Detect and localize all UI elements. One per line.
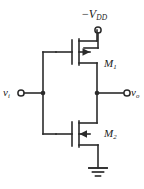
input-terminal-circle[interactable] <box>18 90 24 96</box>
m1-body-arrow-icon <box>83 48 91 56</box>
schematic-figure: −VDD M1 M2 vi vo <box>0 0 144 189</box>
output-label: vo <box>131 87 140 98</box>
circuit-schematic-svg <box>0 0 144 189</box>
m2-subscript: 2 <box>113 133 117 140</box>
supply-minus-sign: − <box>82 7 89 21</box>
m1-symbol: M <box>104 57 113 69</box>
input-label: vi <box>3 87 10 98</box>
supply-label: −VDD <box>82 8 107 20</box>
transistor-m1-label: M1 <box>104 58 117 69</box>
supply-terminal-circle[interactable] <box>95 27 101 33</box>
m2-body-arrow-icon <box>80 130 88 138</box>
m2-symbol: M <box>104 127 113 139</box>
m1-subscript: 1 <box>113 63 117 70</box>
output-subscript: o <box>136 92 140 99</box>
gate-junction-dot <box>41 91 46 96</box>
input-subscript: i <box>8 92 10 99</box>
output-terminal-circle[interactable] <box>124 90 130 96</box>
supply-subscript: DD <box>96 13 107 22</box>
output-junction-dot <box>95 91 100 96</box>
transistor-m2-label: M2 <box>104 128 117 139</box>
